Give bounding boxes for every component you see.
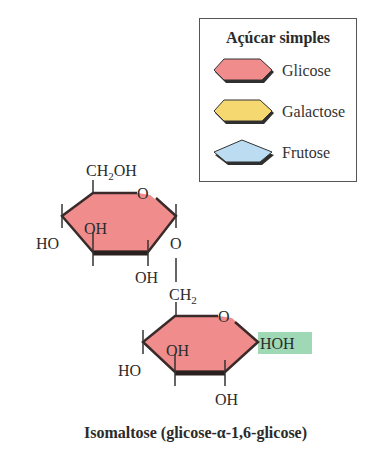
top-oh-inside: OH (84, 220, 108, 237)
hoh-label: HOH (260, 335, 295, 352)
bottom-ring-oxygen: O (218, 308, 230, 325)
top-glucose-ring (62, 180, 176, 330)
bottom-oh-bottom: OH (215, 391, 239, 408)
bottom-oh-inside: OH (166, 342, 190, 359)
bottom-ho-left: HO (118, 362, 141, 379)
top-ch2oh-label: CH2OH (86, 162, 137, 182)
top-oh-bottom: OH (135, 269, 159, 286)
top-ring-oxygen: O (137, 185, 149, 202)
bottom-glucose-ring (143, 316, 258, 386)
caption: Isomaltose (glicose-α-1,6-glicose) (0, 424, 391, 442)
isomaltose-structure: CH2OH O OH HO OH O CH2 O OH HO OH HOH (0, 0, 391, 465)
glycosidic-oxygen: O (170, 235, 182, 252)
top-ho-left: HO (36, 235, 59, 252)
link-ch2-label: CH2 (169, 286, 197, 306)
